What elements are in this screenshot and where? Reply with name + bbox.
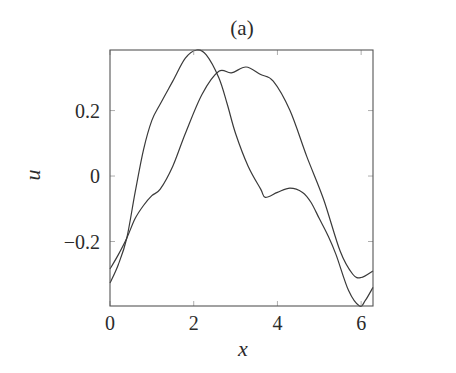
plot-area — [110, 50, 373, 307]
x-tick-label: 6 — [356, 312, 366, 334]
chart-canvas: 0246−0.200.2 — [0, 0, 456, 373]
y-tick-label: 0.2 — [75, 100, 100, 122]
x-tick-label: 2 — [189, 312, 199, 334]
x-tick-label: 0 — [105, 312, 115, 334]
axis-ticks — [110, 50, 373, 306]
chart-title: (a) — [0, 16, 456, 41]
series-line-2 — [110, 67, 373, 278]
x-tick-label: 4 — [272, 312, 282, 334]
plot-frame — [110, 50, 373, 306]
y-tick-label: −0.2 — [64, 231, 100, 253]
y-tick-label: 0 — [90, 165, 100, 187]
axis-tick-labels: 0246−0.200.2 — [64, 100, 366, 334]
series-line-1 — [110, 50, 373, 307]
y-axis-label: u — [20, 164, 46, 186]
x-axis-label: x — [232, 336, 254, 362]
